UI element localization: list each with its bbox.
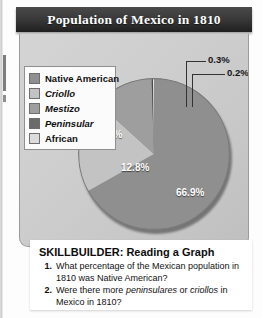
leader-line-african-horizontal [192, 74, 225, 75]
legend-swatch-mestizo [29, 103, 40, 114]
population-pie-figure: Population of Mexico in 1810 Native Amer… [16, 7, 252, 310]
legend-label-peninsular: Peninsular [45, 118, 94, 129]
leader-line-peninsular-vertical [186, 61, 187, 107]
page-edge-gutter [0, 0, 3, 318]
legend-item-african: African [29, 131, 112, 145]
chart-legend: Native American Criollo Mestizo Peninsul… [24, 66, 116, 150]
legend-swatch-criollo [29, 88, 40, 99]
legend-label-mestizo: Mestizo [45, 103, 80, 114]
skillbuilder-question-1-number: 1. [39, 261, 56, 284]
figure-title-bar: Population of Mexico in 1810 [16, 7, 252, 32]
slice-value-criollo: 12.8% [121, 162, 149, 173]
legend-label-native-american: Native American [45, 73, 119, 84]
legend-label-criollo: Criollo [45, 88, 75, 99]
legend-item-mestizo: Mestizo [29, 101, 112, 115]
legend-item-native-american: Native American [29, 71, 112, 85]
skillbuilder-question-2-number: 2. [39, 285, 56, 308]
legend-swatch-african [29, 133, 40, 144]
legend-swatch-peninsular [29, 118, 40, 129]
chart-panel: Native American Criollo Mestizo Peninsul… [19, 34, 249, 247]
page-edge-mark-lower [3, 95, 6, 102]
page-edge-mark-upper [3, 55, 6, 91]
callout-value-peninsular: 0.3% [208, 54, 230, 65]
callout-value-african: 0.2% [227, 67, 249, 78]
skillbuilder-heading: SKILLBUILDER: Reading a Graph [39, 246, 244, 258]
figure-title: Population of Mexico in 1810 [47, 12, 221, 28]
q2-part-0: Were there more [56, 285, 126, 295]
leader-line-peninsular-horizontal [186, 61, 206, 62]
skillbuilder-question-2-text: Were there more peninsulares or criollos… [56, 285, 244, 308]
legend-label-african: African [45, 133, 78, 144]
legend-item-peninsular: Peninsular [29, 116, 112, 130]
q2-part-criollos: criollos [190, 285, 218, 295]
q2-part-peninsulares: peninsulares [126, 285, 177, 295]
skillbuilder-question-1: 1. What percentage of the Mexican popula… [39, 261, 244, 284]
skillbuilder-question-1-text: What percentage of the Mexican populatio… [56, 261, 244, 284]
skillbuilder-question-2: 2. Were there more peninsulares or criol… [39, 285, 244, 308]
legend-swatch-native-american [29, 73, 40, 84]
slice-value-native-american: 66.9% [176, 187, 204, 198]
leader-line-african-vertical [192, 74, 193, 107]
q2-part-2: or [177, 285, 190, 295]
skillbuilder-box: SKILLBUILDER: Reading a Graph 1. What pe… [30, 240, 252, 310]
legend-item-criollo: Criollo [29, 86, 112, 100]
